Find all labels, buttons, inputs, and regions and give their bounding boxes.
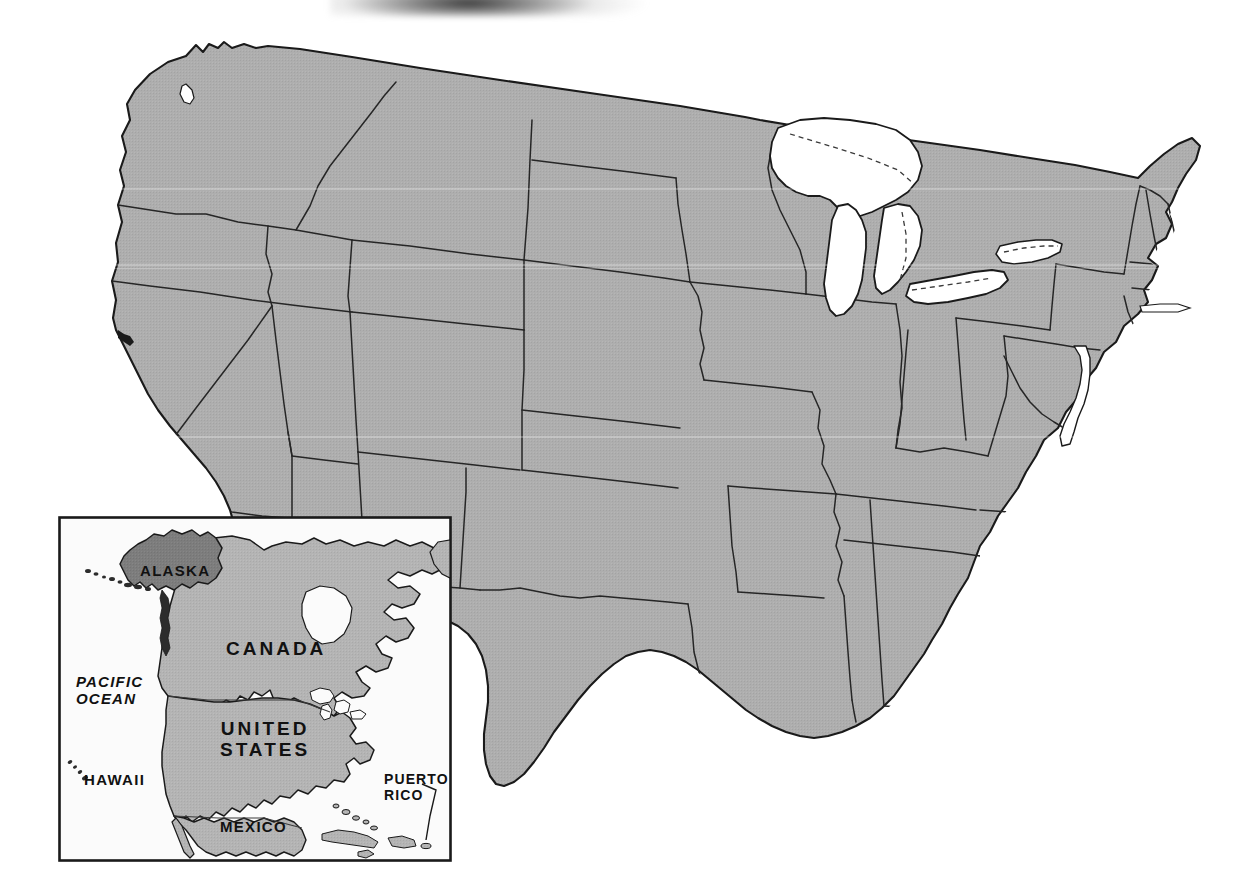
long-island-sound (1140, 304, 1190, 312)
alaska-panhandle (160, 590, 170, 656)
map-page: ALASKA CANADA PACIFIC OCEAN UNITED STATE… (0, 0, 1254, 890)
puerto-rico-island (421, 843, 431, 848)
north-america-inset: ALASKA CANADA PACIFIC OCEAN UNITED STATE… (58, 516, 452, 862)
inset-map (58, 516, 452, 862)
